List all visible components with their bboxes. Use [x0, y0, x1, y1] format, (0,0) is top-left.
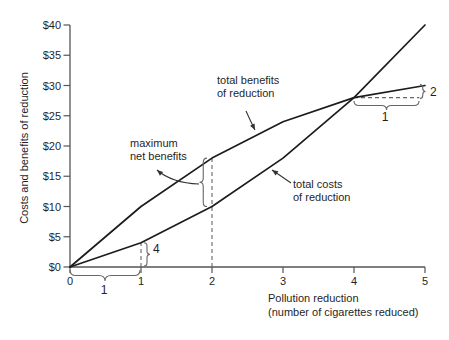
max-net-benefits-label: maximum net benefits [130, 137, 187, 163]
axes [64, 25, 426, 273]
y-tick-label: $35 [43, 49, 61, 61]
y-tick-label: $10 [43, 201, 61, 213]
y-tick-label: $25 [43, 110, 61, 122]
curves [70, 25, 425, 267]
y-tick-label: $15 [43, 170, 61, 182]
y-tick-label: $40 [43, 19, 61, 31]
benefits-curve-label-line1: total benefits [217, 74, 279, 87]
costs-curve-label: total costs of reduction [293, 178, 350, 204]
max-net-benefits-label-line2: net benefits [130, 150, 187, 163]
y-tick-label: $0 [49, 261, 61, 273]
benefits-curve-label: total benefits of reduction [217, 74, 279, 100]
costs-curve-label-line1: total costs [293, 178, 350, 191]
x-tick-label: 2 [209, 275, 215, 287]
x-tick-label: 3 [280, 275, 286, 287]
costs-curve-label-line2: of reduction [293, 191, 350, 204]
x-tick-label: 4 [351, 275, 357, 287]
slope-rise-label-right: 2 [430, 86, 437, 98]
x-axis-title-line1: Pollution reduction [268, 291, 418, 305]
slope-run-label-origin: 1 [101, 284, 108, 296]
y-tick-label: $30 [43, 80, 61, 92]
chart-canvas: $0$5$10$15$20$25$30$35$40012345 [0, 0, 449, 340]
tick-labels: $0$5$10$15$20$25$30$35$40012345 [43, 19, 428, 287]
x-tick-label: 5 [422, 275, 428, 287]
x-axis-title-line2: (number of cigarettes reduced) [268, 305, 418, 319]
benefits-curve-label-line2: of reduction [217, 87, 279, 100]
costs-curve [70, 25, 425, 267]
slope-run-label-right: 1 [382, 111, 389, 123]
slope-rise-label-origin: 4 [153, 243, 160, 255]
y-tick-label: $20 [43, 140, 61, 152]
y-axis-title: Costs and benefits of reduction [18, 72, 30, 224]
benefits-curve [70, 86, 425, 268]
y-tick-label: $5 [49, 231, 61, 243]
max-net-benefits-label-line1: maximum [130, 137, 187, 150]
x-tick-label: 1 [138, 275, 144, 287]
economics-chart-figure: $0$5$10$15$20$25$30$35$40012345 Costs an… [0, 0, 449, 340]
x-axis-title: Pollution reduction (number of cigarette… [268, 291, 418, 319]
x-tick-label: 0 [67, 275, 73, 287]
